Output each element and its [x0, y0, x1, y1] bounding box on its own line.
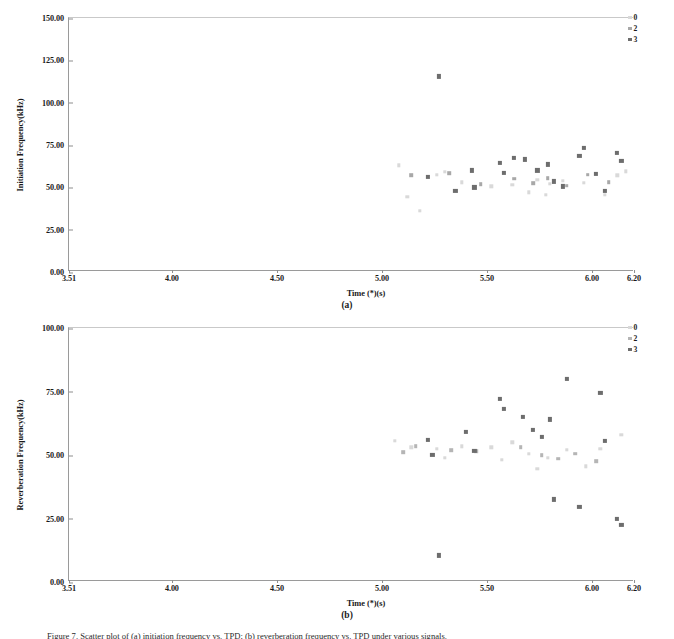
- data-point-marker: [437, 74, 441, 78]
- legend-item[interactable]: 0: [628, 322, 668, 333]
- data-point-marker: [527, 452, 530, 455]
- data-point-marker: [577, 505, 581, 509]
- data-point-marker: [397, 164, 400, 167]
- data-point-marker: [552, 497, 556, 501]
- data-point-marker: [624, 170, 627, 173]
- y-axis-tick-label: 25.00: [46, 225, 69, 234]
- data-point-marker: [577, 154, 581, 158]
- y-axis-tick-label: 50.00: [46, 183, 69, 192]
- data-point-marker: [435, 447, 438, 450]
- data-point-marker: [500, 458, 503, 461]
- data-point-marker: [521, 415, 525, 419]
- x-axis-tick-label: 5.50: [480, 580, 494, 593]
- legend-label: 0: [634, 14, 638, 22]
- data-point-marker: [512, 177, 516, 181]
- data-point-marker: [615, 516, 619, 520]
- data-point-marker: [584, 465, 587, 468]
- legend-a: 023: [628, 12, 668, 45]
- data-point-marker: [565, 448, 568, 451]
- legend-label: 2: [634, 25, 638, 33]
- data-point-marker: [410, 174, 414, 178]
- plot-area-a[interactable]: 0.0025.0050.0075.00100.00125.00150.003.5…: [68, 17, 633, 271]
- data-point-marker: [603, 193, 606, 196]
- data-point-marker: [479, 182, 483, 186]
- data-point-marker: [435, 173, 438, 176]
- data-point-marker: [560, 184, 564, 188]
- y-axis-tick-label: 100.00: [42, 98, 69, 107]
- data-point-marker: [539, 435, 543, 439]
- x-axis-tick-label: 4.00: [165, 580, 179, 593]
- data-point-marker: [414, 444, 418, 448]
- data-point-marker: [546, 162, 550, 166]
- data-point-marker: [430, 453, 434, 457]
- data-point-marker: [565, 184, 569, 188]
- data-point-marker: [535, 168, 539, 172]
- data-point-marker: [603, 189, 607, 193]
- y-axis-tick-label: 50.00: [46, 451, 69, 460]
- y-axis-tick-label: 125.00: [42, 56, 69, 65]
- x-axis-tick-label: 3.51: [62, 580, 76, 593]
- legend-label: 3: [634, 346, 638, 354]
- data-point-marker: [393, 439, 396, 442]
- legend-item[interactable]: 2: [628, 333, 668, 344]
- data-point-marker: [594, 460, 598, 464]
- x-axis-tick-label: 5.00: [375, 580, 389, 593]
- data-point-marker: [497, 397, 501, 401]
- data-point-marker: [410, 446, 413, 449]
- x-axis-label-b: Time (*)(s): [0, 599, 674, 608]
- data-point-marker: [615, 151, 619, 155]
- data-point-marker: [472, 449, 476, 453]
- legend-item[interactable]: 2: [628, 23, 668, 34]
- data-point-marker: [599, 447, 602, 450]
- data-point-marker: [426, 438, 430, 442]
- data-point-marker: [502, 171, 506, 175]
- x-axis-tick-label: 6.00: [585, 580, 599, 593]
- plot-area-b[interactable]: 0.0025.0050.0075.00100.003.514.004.505.0…: [68, 327, 633, 581]
- data-point-marker: [510, 441, 513, 444]
- x-axis-label-a: Time (*)(s): [0, 289, 674, 298]
- data-point-marker: [619, 159, 623, 163]
- data-point-marker: [582, 181, 585, 184]
- data-point-marker: [437, 553, 441, 557]
- data-point-marker: [531, 428, 535, 432]
- chart-panel-b: Reverberation Frequency(kHz) 0.0025.0050…: [0, 310, 674, 630]
- figure-caption: Figure 7. Scatter plot of (a) initiation…: [47, 631, 637, 639]
- data-point-marker: [464, 430, 468, 434]
- x-axis-tick-label: 4.50: [270, 270, 284, 283]
- legend-swatch-icon: [628, 337, 632, 341]
- x-axis-tick-label: 4.50: [270, 580, 284, 593]
- y-axis-tick-label: 25.00: [46, 514, 69, 523]
- x-axis-tick-label: 6.20: [627, 580, 641, 593]
- y-axis-tick-label: 100.00: [42, 324, 69, 333]
- legend-swatch-icon: [628, 38, 632, 42]
- data-point-marker: [598, 391, 602, 395]
- legend-label: 0: [634, 324, 638, 332]
- data-point-marker: [565, 377, 569, 381]
- legend-b: 023: [628, 322, 668, 355]
- data-point-marker: [620, 433, 623, 436]
- x-axis-tick-label: 3.51: [62, 270, 76, 283]
- y-axis-tick-label: 75.00: [46, 141, 69, 150]
- data-point-marker: [552, 179, 556, 183]
- data-point-marker: [607, 180, 611, 184]
- data-point-marker: [619, 523, 623, 527]
- x-axis-tick-label: 5.00: [375, 270, 389, 283]
- x-axis-tick-label: 5.50: [480, 270, 494, 283]
- data-point-marker: [573, 452, 577, 456]
- data-point-marker: [489, 185, 492, 188]
- data-point-marker: [546, 456, 549, 459]
- legend-item[interactable]: 3: [628, 344, 668, 355]
- legend-item[interactable]: 0: [628, 12, 668, 23]
- data-point-marker: [502, 407, 506, 411]
- data-point-marker: [540, 453, 544, 457]
- legend-swatch-icon: [628, 326, 632, 330]
- data-point-marker: [581, 145, 585, 149]
- data-point-marker: [527, 191, 530, 194]
- data-point-marker: [447, 171, 451, 175]
- legend-item[interactable]: 3: [628, 34, 668, 45]
- data-point-marker: [460, 181, 463, 184]
- x-axis-tick-label: 6.20: [627, 270, 641, 283]
- data-point-marker: [489, 446, 492, 449]
- data-point-marker: [426, 175, 430, 179]
- data-point-marker: [443, 170, 446, 173]
